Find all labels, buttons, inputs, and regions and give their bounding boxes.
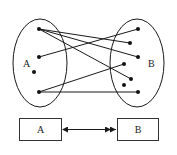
set-b-label: B <box>148 58 155 69</box>
set-b-point <box>122 62 126 66</box>
set-b-point <box>136 27 140 31</box>
set-b-point <box>128 41 132 45</box>
set-b-point <box>122 83 126 87</box>
box-b-label: B <box>135 124 142 135</box>
mapping-lines <box>39 29 138 92</box>
set-b-points <box>122 27 140 94</box>
set-b-point <box>129 77 133 81</box>
set-a-label: A <box>23 58 31 69</box>
set-a-point <box>32 70 36 74</box>
box-b: B <box>118 119 159 141</box>
box-a-label: A <box>37 124 45 135</box>
box-a: A <box>20 119 62 141</box>
set-b-ellipse <box>110 19 164 107</box>
set-b-point <box>136 55 140 59</box>
set-a-point <box>37 27 41 31</box>
set-a-points <box>32 27 41 94</box>
set-a-point <box>37 55 41 59</box>
set-mapping-diagram: A B A B <box>0 0 177 155</box>
set-a-point <box>37 90 41 94</box>
set-b: B <box>110 19 164 107</box>
set-b-point <box>136 90 140 94</box>
